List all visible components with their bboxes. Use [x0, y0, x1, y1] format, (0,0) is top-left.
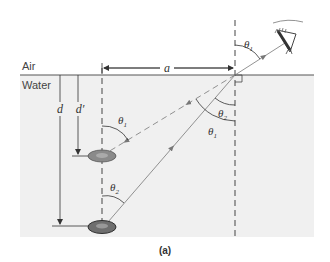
- refraction-diagram: a d d′ θ1 θ2 θ1 θ1 θ2: [0, 0, 330, 262]
- figure-caption: (a): [159, 245, 171, 256]
- eye-icon: [273, 20, 303, 54]
- label-d: d: [57, 102, 64, 116]
- real-coin: [88, 221, 116, 234]
- label-d-prime: d′: [76, 102, 85, 116]
- image-coin: [88, 150, 116, 162]
- theta1-label-air: θ1: [244, 38, 253, 53]
- label-air: Air: [22, 60, 36, 72]
- label-a: a: [164, 61, 170, 75]
- water-region: [20, 75, 314, 237]
- label-water: Water: [22, 79, 51, 91]
